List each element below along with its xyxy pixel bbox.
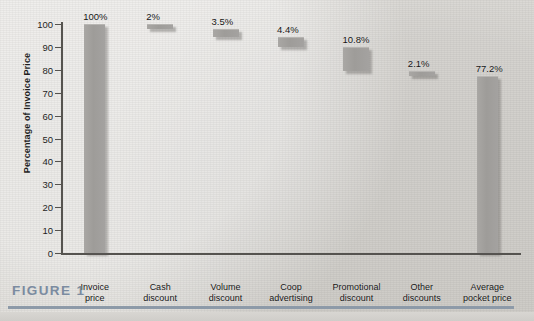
y-tick-label: 0 — [48, 248, 53, 259]
y-tick-mark — [55, 253, 61, 254]
value-label-7: 77.2% — [476, 63, 503, 74]
plot-area: 0102030405060708090100 100%2%3.5%4.4%10.… — [62, 24, 520, 253]
y-tick-label: 100 — [37, 19, 53, 30]
category-label-4: Coop advertising — [258, 282, 323, 303]
y-tick-label: 30 — [42, 179, 53, 190]
bar-7 — [477, 76, 498, 253]
value-label-1: 100% — [83, 11, 107, 22]
category-label-7: Average pocket price — [455, 282, 520, 303]
category-label-3: Volume discount — [193, 282, 258, 303]
page-bottom-strip — [0, 312, 534, 321]
y-tick-mark — [55, 207, 61, 208]
y-tick-mark — [55, 47, 61, 48]
y-tick-label: 40 — [42, 156, 53, 167]
bar-6 — [409, 71, 435, 76]
y-tick-label: 70 — [42, 87, 53, 98]
value-label-5: 10.8% — [342, 34, 369, 45]
bar-3 — [213, 29, 239, 37]
caption-rule — [8, 306, 514, 309]
y-axis-title: Percentage of Invoice Price — [22, 28, 32, 198]
y-tick-mark — [55, 93, 61, 94]
bar-4 — [278, 37, 304, 47]
bar-2 — [147, 24, 173, 29]
category-label-2: Cash discount — [127, 282, 192, 303]
y-tick-mark — [55, 184, 61, 185]
value-label-3: 3.5% — [212, 16, 234, 27]
value-label-4: 4.4% — [277, 24, 299, 35]
bar-5 — [343, 47, 369, 72]
y-tick-label: 50 — [42, 133, 53, 144]
value-label-2: 2% — [146, 11, 160, 22]
figure-caption: FIGURE 1 — [12, 283, 85, 298]
category-label-5: Promotional discount — [324, 282, 389, 303]
value-label-6: 2.1% — [408, 58, 430, 69]
y-tick-label: 10 — [42, 225, 53, 236]
y-tick-mark — [55, 161, 61, 162]
y-tick-mark — [55, 230, 61, 231]
bar-1 — [84, 24, 105, 253]
y-tick-mark — [55, 70, 61, 71]
y-tick-label: 90 — [42, 41, 53, 52]
y-tick-label: 60 — [42, 110, 53, 121]
y-tick-mark — [55, 116, 61, 117]
waterfall-chart: Percentage of Invoice Price 010203040506… — [0, 0, 534, 268]
y-tick-mark — [55, 139, 61, 140]
y-tick-label: 20 — [42, 202, 53, 213]
x-axis-line — [61, 253, 521, 255]
y-tick-mark — [55, 24, 61, 25]
y-tick-label: 80 — [42, 64, 53, 75]
category-label-6: Other discounts — [389, 282, 454, 303]
